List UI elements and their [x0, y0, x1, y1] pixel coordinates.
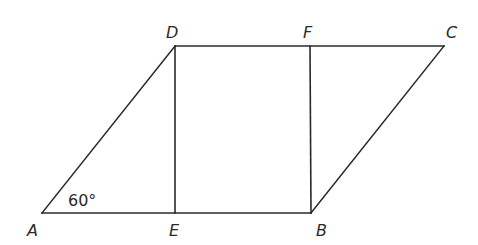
segment-fb: [310, 46, 311, 213]
vertex-label-c: C: [446, 23, 458, 42]
vertex-label-a: A: [26, 221, 38, 240]
vertex-label-f: F: [303, 23, 313, 42]
segment-da: [42, 46, 175, 213]
angle-label-60-degrees: 60°: [68, 191, 96, 210]
segments: [42, 46, 444, 213]
segment-bc: [311, 46, 444, 213]
geometry-diagram: A B C D E F 60°: [0, 0, 478, 245]
vertex-label-e: E: [169, 221, 180, 240]
vertex-label-b: B: [316, 221, 327, 240]
vertex-label-d: D: [166, 23, 178, 42]
